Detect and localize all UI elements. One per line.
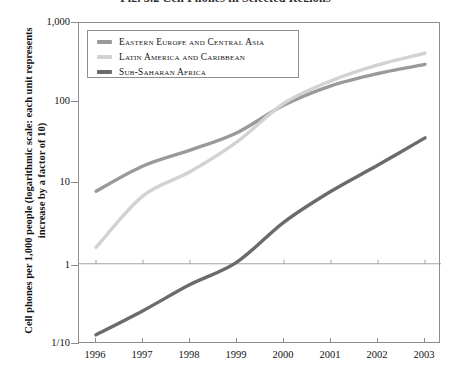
gridlines [79, 260, 441, 264]
chart-legend: Eastern Europe and Central Asia Latin Am… [87, 30, 299, 78]
legend-label-sub-saharan-africa: Sub-Saharan Africa [119, 67, 206, 77]
y-axis-title: Cell phones per 1,000 people (logarithmi… [23, 16, 48, 346]
legend-swatch-latin-america [97, 55, 112, 59]
legend-item-sub-saharan-africa: Sub-Saharan Africa [97, 65, 298, 79]
series-line-eastern-europe [96, 64, 425, 191]
legend-label-eastern-europe: Eastern Europe and Central Asia [119, 37, 264, 47]
x-tick-label-2003: 2003 [394, 349, 451, 360]
legend-swatch-eastern-europe [97, 40, 112, 44]
legend-item-eastern-europe: Eastern Europe and Central Asia [97, 35, 298, 49]
legend-item-latin-america: Latin America and Caribbean [97, 50, 298, 64]
legend-label-latin-america: Latin America and Caribbean [119, 52, 245, 62]
chart-title: Fig. 3.2 Cell Phones in Selected Regions [0, 0, 451, 2]
series-line-sub-saharan-africa [96, 138, 425, 335]
series-lines [96, 53, 425, 335]
series-line-latin-america [96, 53, 425, 247]
legend-swatch-sub-saharan-africa [97, 70, 112, 74]
y-tick-mark-tenth [71, 343, 79, 344]
